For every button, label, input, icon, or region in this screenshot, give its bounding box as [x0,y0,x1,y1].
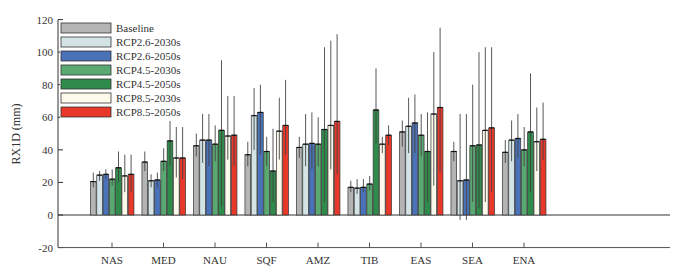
x-tick-label: TIB [361,254,379,266]
y-tick-label: -20 [38,242,53,254]
y-tick-label: 80 [42,79,54,91]
bar [386,135,392,215]
legend-swatch [61,93,111,103]
legend-swatch [61,79,111,89]
x-tick-label: MED [151,254,176,266]
rx1d-bar-chart: -20020406080100120 NASMEDNAUSQFAMZTIBEAS… [0,0,674,279]
bar [97,175,103,215]
legend-swatch [61,23,111,33]
legend: BaselineRCP2.6-2030sRCP2.6-2050sRCP4.5-2… [60,21,188,121]
x-tick-label: SEA [462,254,483,266]
y-tick-label: 100 [37,46,54,58]
legend-label: Baseline [116,22,154,34]
legend-swatch [61,107,111,117]
y-tick-label: 60 [42,111,54,123]
x-tick-label: ENA [513,254,536,266]
y-tick-label: 20 [42,176,54,188]
x-tick-label: AMZ [306,254,331,266]
legend-label: RCP4.5-2030s [116,64,181,76]
x-tick-label: SQF [256,254,276,266]
x-tick-label: EAS [411,254,432,266]
bar [379,144,385,215]
legend-label: RCP2.6-2050s [116,50,181,62]
legend-swatch [61,65,111,75]
legend-label: RCP2.6-2030s [116,36,181,48]
y-tick-label: 0 [48,209,54,221]
x-tick-label: NAU [203,254,227,266]
x-tick-label: NAS [101,254,123,266]
y-tick-label: 120 [37,14,54,26]
legend-label: RCP4.5-2050s [116,78,181,90]
x-axis: NASMEDNAUSQFAMZTIBEASSEAENA [58,243,670,266]
y-axis-label: RX1D (mm) [9,104,23,165]
chart-canvas: -20020406080100120 NASMEDNAUSQFAMZTIBEAS… [0,0,674,279]
legend-label: RCP8.5-2030s [116,92,181,104]
legend-swatch [61,37,111,47]
y-tick-label: 40 [42,144,54,156]
legend-label: RCP8.5-2050s [116,106,181,118]
bar [103,174,109,215]
legend-swatch [61,51,111,61]
